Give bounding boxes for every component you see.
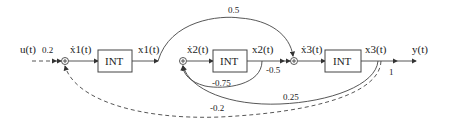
x3-label: x3(t) [365, 43, 387, 56]
gain-neg0.2-label: -0.2 [210, 103, 224, 113]
x2-label: x2(t) [252, 43, 274, 56]
integrator-1-label: INT [105, 55, 124, 67]
gain-0.25-label: 0.25 [283, 92, 299, 102]
output-label: y(t) [412, 43, 428, 56]
x2dot-label: ẋ2(t) [187, 43, 209, 56]
integrator-3-label: INT [333, 55, 352, 67]
input-label: u(t) [20, 43, 36, 56]
x1-label: x1(t) [138, 43, 160, 56]
gain-neg0.5-label: -0.5 [266, 65, 281, 75]
x3dot-label: ẋ3(t) [301, 43, 323, 56]
gain-neg0.75-label: -0.75 [212, 78, 231, 88]
output-gain-label: 1 [389, 67, 394, 77]
integrator-2-label: INT [220, 55, 239, 67]
x1dot-label: ẋ1(t) [70, 43, 92, 56]
block-diagram: u(t) 0.2 ẋ1(t) INT x1(t) 0.5 ẋ2(t) INT x… [0, 0, 454, 127]
gain-0.5-label: 0.5 [228, 5, 240, 15]
input-gain-label: 0.2 [42, 45, 53, 55]
